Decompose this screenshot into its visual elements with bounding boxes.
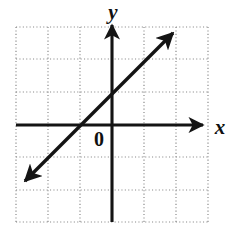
coordinate-plane: y x 0 [0,0,229,235]
y-axis-label: y [105,0,118,24]
graph-figure: y x 0 [0,0,229,235]
x-axis-label: x [214,115,226,139]
origin-label: 0 [94,128,104,150]
plotted-line [25,33,173,181]
